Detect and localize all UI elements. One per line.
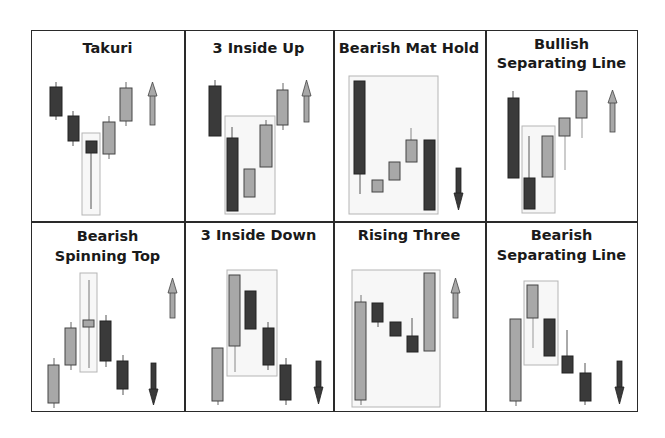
arrow-down-icon bbox=[615, 361, 624, 404]
bearish-separating-line-chart bbox=[0, 0, 665, 438]
